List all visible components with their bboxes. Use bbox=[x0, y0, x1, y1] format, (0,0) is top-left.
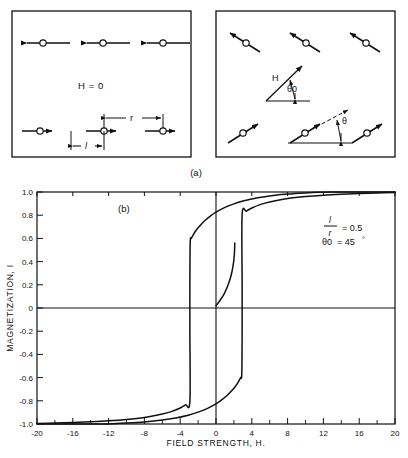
panel-a-right-box: H θ0 θ bbox=[216, 11, 395, 157]
dipole-right-2 bbox=[86, 128, 116, 134]
panel-a-left-box: H = 0 r bbox=[12, 11, 191, 157]
y-tick-label: 1.0 bbox=[22, 188, 34, 197]
dipole-tilted-1 bbox=[230, 33, 260, 52]
y-tick-label: -0.4 bbox=[19, 350, 33, 359]
panel-b-caption: (b) bbox=[118, 203, 130, 214]
y-axis-title: MAGNETIZATION, I bbox=[5, 264, 15, 352]
x-tick-label: -12 bbox=[103, 429, 115, 438]
y-tick-label: -0.8 bbox=[19, 397, 33, 406]
annotation-theta0-value: = 45 bbox=[337, 237, 355, 247]
dipole-left-1 bbox=[27, 40, 70, 46]
dipole-left-3 bbox=[147, 40, 190, 46]
dipole-row-tilted-upright bbox=[228, 124, 382, 143]
panel-a-caption: (a) bbox=[190, 167, 202, 178]
curve-inner-recoil-branch bbox=[216, 243, 235, 306]
dipole-tilted-6 bbox=[352, 124, 382, 143]
x-tick-label: 20 bbox=[391, 429, 400, 438]
x-tick-label: -4 bbox=[177, 429, 185, 438]
y-axis-major-ticks bbox=[37, 192, 43, 424]
x-tick-label: -20 bbox=[31, 429, 43, 438]
moment-angle-label: θ bbox=[342, 116, 347, 126]
y-tick-label: 0.8 bbox=[22, 211, 34, 220]
dipole-left-2 bbox=[87, 40, 130, 46]
annotation-theta0-symbol: θ0 bbox=[322, 237, 332, 247]
x-tick-label: 0 bbox=[214, 429, 219, 438]
spacing-dimension-r: r bbox=[104, 112, 163, 131]
y-tick-label: 0.2 bbox=[22, 281, 34, 290]
dipole-row-left bbox=[27, 40, 190, 46]
chart-annotations: l r = 0.5 θ0 = 45 ° bbox=[322, 215, 365, 247]
dipole-tilted-4 bbox=[228, 124, 258, 143]
x-tick-label: 12 bbox=[319, 429, 328, 438]
x-tick-label: 4 bbox=[250, 429, 255, 438]
dipole-tilted-3 bbox=[350, 33, 380, 52]
dipole-right-1 bbox=[22, 128, 52, 134]
length-dimension-l: l bbox=[71, 131, 104, 152]
panel-b-chart: -20-16-12-8-4048121620 -1.0-0.8-0.6-0.4-… bbox=[5, 188, 400, 448]
y-tick-label: 0.6 bbox=[22, 234, 34, 243]
annotation-lr-value: = 0.5 bbox=[342, 223, 362, 233]
spacing-label-r: r bbox=[130, 113, 133, 123]
figure-svg: H = 0 r bbox=[0, 0, 408, 458]
x-tick-label: -8 bbox=[141, 429, 149, 438]
x-tick-label: 16 bbox=[355, 429, 364, 438]
dipole-right-3 bbox=[145, 128, 175, 134]
y-axis-tick-labels: -1.0-0.8-0.6-0.4-0.200.20.40.60.81.0 bbox=[19, 188, 33, 429]
x-tick-label: -16 bbox=[67, 429, 79, 438]
field-angle-label: θ0 bbox=[287, 84, 297, 94]
figure-root: H = 0 r bbox=[0, 0, 408, 458]
y-tick-label: -0.2 bbox=[19, 327, 33, 336]
annotation-lr-numerator: l bbox=[329, 215, 332, 225]
dipole-tilted-2 bbox=[290, 33, 320, 52]
x-tick-label: 8 bbox=[285, 429, 290, 438]
y-tick-label: 0 bbox=[29, 304, 34, 313]
dipole-row-right bbox=[22, 128, 175, 134]
x-axis-tick-labels: -20-16-12-8-4048121620 bbox=[31, 429, 400, 438]
y-tick-label: 0.4 bbox=[22, 258, 34, 267]
annotation-theta0-degree: ° bbox=[362, 236, 365, 243]
field-zero-label: H = 0 bbox=[78, 80, 104, 91]
field-vector-label: H bbox=[272, 73, 279, 83]
theta-upper-tick bbox=[337, 120, 341, 141]
dipole-row-tilted-upleft bbox=[230, 33, 380, 52]
x-axis-title: FIELD STRENGTH, H. bbox=[166, 438, 265, 448]
y-tick-label: -0.6 bbox=[19, 374, 33, 383]
y-tick-label: -1.0 bbox=[19, 420, 33, 429]
field-vector-group: H θ0 bbox=[266, 66, 310, 101]
dipole-tilted-5 bbox=[290, 124, 320, 143]
